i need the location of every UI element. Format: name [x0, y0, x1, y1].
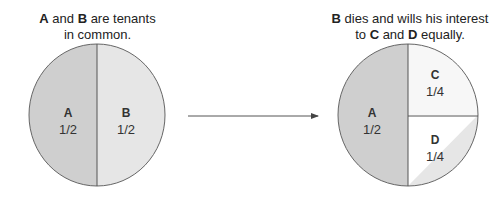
slice-a-owner: A: [368, 106, 377, 120]
slice-b-share: 1/2: [117, 122, 135, 137]
slice-b-owner: B: [122, 106, 131, 120]
right-pie: A 1/2 C 1/4 D 1/4: [338, 44, 478, 186]
slice-a-owner: A: [64, 106, 73, 120]
slice-c-owner: C: [431, 68, 440, 82]
left-pie: A 1/2 B 1/2: [29, 44, 165, 186]
slice-a-share: 1/2: [363, 122, 381, 137]
slice-b: [97, 44, 165, 186]
diagram-canvas: A 1/2 B 1/2 A 1/2 C 1/4 D 1/4: [0, 0, 499, 200]
slice-c-share: 1/4: [426, 84, 444, 99]
slice-a-share: 1/2: [59, 122, 77, 137]
slice-d-owner: D: [431, 133, 440, 147]
slice-d-share: 1/4: [426, 149, 444, 164]
slice-c: [408, 44, 478, 115]
